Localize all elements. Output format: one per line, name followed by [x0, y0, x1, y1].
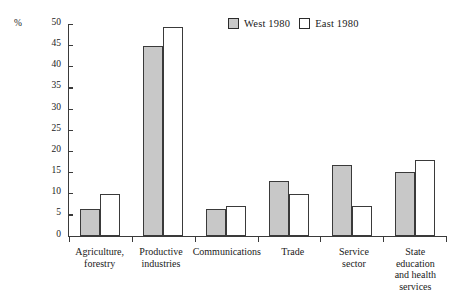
x-axis-separator — [446, 236, 447, 242]
x-axis-separator — [383, 236, 384, 242]
category-label: State educationand healthservices — [385, 246, 446, 292]
bar-group — [195, 24, 258, 236]
category-label-line: Trade — [263, 246, 322, 258]
x-axis-separator — [258, 236, 259, 242]
bar-east — [100, 194, 120, 236]
category-label-line: State education — [386, 246, 445, 269]
y-axis-tick-label: 45 — [52, 38, 62, 48]
y-axis-tick-label: 40 — [52, 59, 62, 69]
y-axis-tick-label: 50 — [52, 17, 62, 27]
category-label-line: and health — [386, 269, 445, 281]
x-axis-separator — [69, 236, 70, 242]
y-axis-tick-label: 20 — [52, 144, 62, 154]
category-label-line: forestry — [70, 258, 129, 270]
x-axis-category-labels: Agriculture,forestryProductiveindustries… — [69, 246, 446, 292]
bar-east — [226, 206, 246, 236]
category-label: Productiveindustries — [130, 246, 191, 292]
category-label-line: Productive — [131, 246, 190, 258]
y-axis-tick-label: 0 — [56, 229, 61, 239]
x-axis-separator — [132, 236, 133, 242]
bar-group — [69, 24, 132, 236]
y-axis-tick-label: 10 — [52, 186, 62, 196]
y-axis-tick-label: 5 — [56, 207, 61, 217]
bar-east — [415, 160, 435, 236]
bar-west — [80, 209, 100, 236]
y-axis-tick-label: 35 — [52, 80, 62, 90]
y-axis-tick-label: 30 — [52, 102, 62, 112]
bar-east — [163, 27, 183, 236]
category-label-line: Agriculture, — [70, 246, 129, 258]
category-label-line: Service — [324, 246, 383, 258]
bar-group — [257, 24, 320, 236]
x-axis-separator — [195, 236, 196, 242]
y-axis-unit-label: % — [14, 18, 22, 28]
category-label: Agriculture,forestry — [69, 246, 130, 292]
category-label: Communications — [192, 246, 262, 292]
bar-east — [352, 206, 372, 236]
bar-west — [143, 46, 163, 236]
category-label-line: industries — [131, 258, 190, 270]
y-axis-tick-label: 25 — [52, 123, 62, 133]
category-label-line: Communications — [193, 246, 261, 258]
category-label: Servicesector — [323, 246, 384, 292]
bar-west — [206, 209, 226, 236]
category-label-line: services — [386, 281, 445, 292]
bar-east — [289, 194, 309, 236]
category-label: Trade — [262, 246, 323, 292]
bar-group — [320, 24, 383, 236]
bar-west — [269, 181, 289, 236]
category-label-line: sector — [324, 258, 383, 270]
bar-group — [383, 24, 446, 236]
y-axis-tick-label: 15 — [52, 165, 62, 175]
bar-west — [395, 172, 415, 236]
plot-area — [69, 24, 446, 236]
bar-group — [132, 24, 195, 236]
x-axis-separator — [320, 236, 321, 242]
bar-west — [332, 165, 352, 236]
